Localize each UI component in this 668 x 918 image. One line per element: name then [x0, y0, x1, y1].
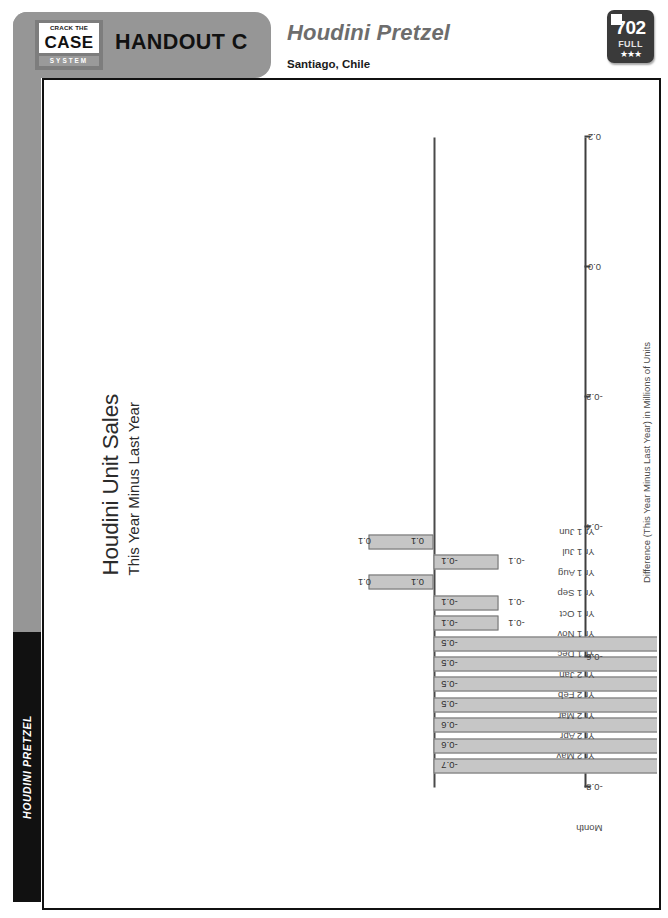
case-title: Houdini Pretzel: [287, 20, 450, 46]
bar-value-label-inner: -0.5: [441, 638, 457, 649]
chart-canvas: Houdini Unit Sales This Year Minus Last …: [43, 78, 658, 906]
bar: [434, 759, 658, 774]
category-label: Yr 1 Aug: [558, 567, 594, 578]
logo-system-text: SYSTEM: [39, 56, 99, 66]
bar-value-label-inner: -0.5: [441, 679, 457, 690]
bar: [434, 657, 658, 672]
chart-subtitle: This Year Minus Last Year: [125, 402, 142, 575]
chart-title: Houdini Unit Sales: [98, 394, 124, 576]
bar-value-label-inner: -0.1: [441, 618, 457, 629]
badge-tier: FULL: [607, 39, 654, 49]
value-tick-label: 0.0: [588, 262, 601, 273]
logo-crack-the-text: CRACK THE: [39, 23, 99, 32]
handout-page: HOUDINI PRETZEL CRACK THE CASE SYSTEM HA…: [0, 0, 668, 918]
bar-value-label-outer: -0.1: [508, 618, 524, 629]
category-label: Yr 1 Sep: [558, 588, 595, 599]
category-label: Yr 1 Jul: [562, 547, 594, 558]
bar-value-label-outer: 0.1: [358, 577, 371, 588]
spine-label: HOUDINI PRETZEL: [13, 632, 41, 902]
bar: [434, 738, 658, 753]
value-tick-label: 0.2: [588, 132, 601, 143]
bar-value-label-outer: -0.1: [508, 597, 524, 608]
value-tick-label: -0.8: [586, 782, 602, 793]
bar-value-label-inner: -0.6: [441, 740, 457, 751]
spine-label-text: HOUDINI PRETZEL: [21, 715, 33, 819]
bar-value-label-inner: 0.1: [411, 536, 424, 547]
bar: [434, 718, 658, 733]
bar-value-label-inner: 0.1: [411, 577, 424, 588]
category-label: Yr 1 Nov: [558, 629, 595, 640]
bar-value-label-outer: -0.1: [508, 557, 524, 568]
bar: [434, 636, 658, 651]
handout-label: HANDOUT C: [115, 30, 248, 55]
bar-value-label-inner: -0.5: [441, 699, 457, 710]
bar-value-label-inner: -0.6: [441, 720, 457, 731]
spine-grey-band: [13, 12, 41, 636]
value-tick-label: -0.4: [586, 522, 602, 533]
bar-value-label-outer: 0.1: [358, 536, 371, 547]
bar-value-label-inner: -0.1: [441, 557, 457, 568]
bar-value-label-inner: -0.5: [441, 659, 457, 670]
handout-tab: CRACK THE CASE SYSTEM HANDOUT C: [13, 12, 271, 78]
bar: [434, 677, 658, 692]
crack-the-case-logo: CRACK THE CASE SYSTEM: [35, 20, 103, 70]
category-label: Yr 1 Oct: [560, 608, 595, 619]
bar-value-label-inner: -0.7: [441, 761, 457, 772]
plot-area: Difference (This Year Minus Last Year) i…: [171, 138, 581, 788]
value-tick-label: -0.2: [586, 392, 602, 403]
case-location: Santiago, Chile: [287, 58, 370, 70]
logo-case-text: CASE: [39, 32, 99, 53]
badge-stars-icon: ★★★: [607, 49, 654, 59]
case-number-badge: 702 FULL ★★★: [607, 10, 654, 63]
category-axis-title: Month: [576, 823, 602, 834]
bar-value-label-inner: -0.1: [441, 597, 457, 608]
badge-number: 702: [607, 18, 654, 37]
value-tick-label: -0.6: [586, 652, 602, 663]
chart-region: Houdini Unit Sales This Year Minus Last …: [42, 78, 657, 906]
bar: [434, 697, 658, 712]
